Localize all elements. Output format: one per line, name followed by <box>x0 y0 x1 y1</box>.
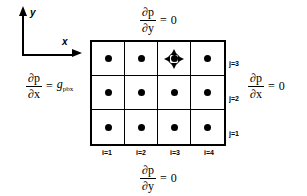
node-dot <box>105 89 112 96</box>
node-dot <box>171 55 178 62</box>
grid-cell <box>125 76 158 110</box>
grid-cell <box>92 110 125 144</box>
grid-cell <box>92 76 125 110</box>
boundary-value: gpbx <box>57 78 74 93</box>
fraction-denominator: ∂y <box>140 178 156 193</box>
equals-sign: = <box>160 14 167 26</box>
i-index-label-3: i=3 <box>158 149 192 156</box>
grid-cell <box>92 42 125 76</box>
node-dot <box>105 124 112 131</box>
fraction-numerator: ∂p <box>140 6 156 20</box>
equals-sign: = <box>46 80 53 92</box>
grid-cell <box>191 110 224 144</box>
node-dot <box>204 89 211 96</box>
computational-grid <box>90 40 226 146</box>
grid-cell <box>191 76 224 110</box>
derivative-fraction: ∂p ∂y <box>140 164 156 192</box>
fraction-denominator: ∂x <box>248 86 264 101</box>
boundary-value: 0 <box>171 172 177 184</box>
grid-cell <box>125 110 158 144</box>
x-axis-line <box>22 54 74 56</box>
boundary-condition-bottom: ∂p ∂y = 0 <box>140 164 177 192</box>
equals-sign: = <box>160 172 167 184</box>
node-dot <box>171 89 178 96</box>
crosshair-spike-south <box>171 63 177 69</box>
derivative-fraction: ∂p ∂y <box>140 6 156 34</box>
node-dot <box>138 89 145 96</box>
boundary-value: 0 <box>171 14 177 26</box>
node-dot <box>204 55 211 62</box>
grid-cell <box>158 76 191 110</box>
fraction-numerator: ∂p <box>248 72 264 86</box>
y-axis-line <box>22 14 24 56</box>
j-index-label-2: j=2 <box>229 95 239 102</box>
node-dot <box>204 124 211 131</box>
i-index-label-2: i=2 <box>124 149 158 156</box>
j-index-label-1: j=1 <box>229 130 239 137</box>
derivative-fraction: ∂p ∂x <box>248 72 264 100</box>
y-axis-label: y <box>30 8 36 18</box>
node-dot <box>138 55 145 62</box>
boundary-condition-right: ∂p ∂x = 0 <box>248 72 285 100</box>
boundary-condition-top: ∂p ∂y = 0 <box>140 6 177 34</box>
node-dot <box>171 124 178 131</box>
crosshair-spike-north <box>171 49 177 55</box>
node-dot <box>138 124 145 131</box>
node-dot <box>105 55 112 62</box>
grid-cell-marked <box>158 42 191 76</box>
grid-cell <box>125 42 158 76</box>
fraction-denominator: ∂x <box>26 86 42 101</box>
derivative-fraction: ∂p ∂x <box>26 72 42 100</box>
figure-canvas: y x ∂p ∂y = 0 ∂p ∂x = gpbx ∂p ∂x = 0 ∂p … <box>0 0 307 196</box>
x-axis-label: x <box>62 37 68 47</box>
j-index-label-3: j=3 <box>229 60 239 67</box>
grid-cell <box>158 110 191 144</box>
boundary-value: 0 <box>279 80 285 92</box>
y-axis-arrow-icon <box>19 6 27 16</box>
fraction-denominator: ∂y <box>140 20 156 35</box>
grid-cell <box>191 42 224 76</box>
i-index-label-4: i=4 <box>192 149 226 156</box>
boundary-value-subscript: pbx <box>63 86 74 94</box>
fraction-numerator: ∂p <box>140 164 156 178</box>
equals-sign: = <box>268 80 275 92</box>
fraction-numerator: ∂p <box>26 72 42 86</box>
crosshair-spike-west <box>164 56 170 62</box>
boundary-condition-left: ∂p ∂x = gpbx <box>26 72 73 100</box>
i-index-label-1: i=1 <box>90 149 124 156</box>
coordinate-axes: y x <box>22 8 84 56</box>
x-axis-arrow-icon <box>72 49 82 57</box>
crosshair-spike-east <box>178 56 184 62</box>
